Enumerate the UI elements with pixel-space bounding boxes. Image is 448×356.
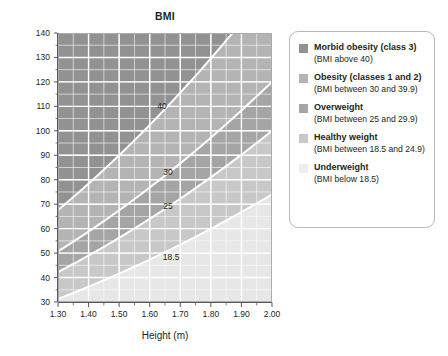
plot-area: 40302518.5 — [58, 33, 272, 302]
legend-item-subtitle: (BMI between 25 and 29.9) — [314, 114, 426, 126]
curve-label-18-5: 18.5 — [163, 252, 180, 262]
legend-item: Healthy weight(BMI between 18.5 and 24.9… — [299, 132, 426, 155]
legend-swatch — [299, 74, 308, 83]
y-tick-label-40: 40 — [24, 273, 50, 283]
legend-text: Underweight(BMI below 18.5) — [314, 162, 426, 185]
legend-item-title: Healthy weight — [314, 132, 426, 144]
legend-item-subtitle: (BMI between 30 and 39.9) — [314, 84, 426, 96]
y-tick-label-30: 30 — [24, 297, 50, 307]
curve-label-25: 25 — [163, 201, 173, 211]
chart-title: BMI — [58, 10, 272, 22]
y-tick-label-110: 110 — [24, 101, 50, 111]
legend-item: Morbid obesity (class 3)(BMI above 40) — [299, 42, 426, 65]
legend-swatch — [299, 104, 308, 113]
legend-swatch — [299, 164, 308, 173]
y-tick-label-100: 100 — [24, 126, 50, 136]
legend-item-title: Overweight — [314, 102, 426, 114]
legend-text: Overweight(BMI between 25 and 29.9) — [314, 102, 426, 125]
y-tick-label-120: 120 — [24, 77, 50, 87]
y-tick-label-130: 130 — [24, 52, 50, 62]
legend-swatch — [299, 134, 308, 143]
legend-item-subtitle: (BMI below 18.5) — [314, 174, 426, 186]
plot-svg: 40302518.5 — [58, 33, 272, 302]
y-tick-label-50: 50 — [24, 248, 50, 258]
curve-label-30: 30 — [163, 167, 173, 177]
y-tick-label-90: 90 — [24, 150, 50, 160]
legend-item-title: Morbid obesity (class 3) — [314, 42, 426, 54]
legend-text: Morbid obesity (class 3)(BMI above 40) — [314, 42, 426, 65]
x-tick-label-2.00: 2.00 — [252, 309, 292, 319]
y-tick-label-60: 60 — [24, 224, 50, 234]
legend-text: Healthy weight(BMI between 18.5 and 24.9… — [314, 132, 426, 155]
legend-item: Underweight(BMI below 18.5) — [299, 162, 426, 185]
legend-item-subtitle: (BMI above 40) — [314, 54, 426, 66]
curve-label-40: 40 — [157, 101, 167, 111]
legend-items: Morbid obesity (class 3)(BMI above 40)Ob… — [290, 32, 434, 185]
legend-item-title: Underweight — [314, 162, 426, 174]
legend-text: Obesity (classes 1 and 2)(BMI between 30… — [314, 72, 426, 95]
y-tick-label-70: 70 — [24, 199, 50, 209]
legend-item: Overweight(BMI between 25 and 29.9) — [299, 102, 426, 125]
y-tick-label-80: 80 — [24, 175, 50, 185]
legend-swatch — [299, 44, 308, 53]
bmi-chart-figure: BMI 40302518.5 Weight (kg) Height (m) 30… — [0, 0, 448, 356]
legend: Morbid obesity (class 3)(BMI above 40)Ob… — [289, 31, 435, 228]
legend-item: Obesity (classes 1 and 2)(BMI between 30… — [299, 72, 426, 95]
x-axis-title: Height (m) — [58, 330, 272, 341]
legend-item-subtitle: (BMI between 18.5 and 24.9) — [314, 144, 426, 156]
legend-item-title: Obesity (classes 1 and 2) — [314, 72, 426, 84]
y-tick-label-140: 140 — [24, 28, 50, 38]
